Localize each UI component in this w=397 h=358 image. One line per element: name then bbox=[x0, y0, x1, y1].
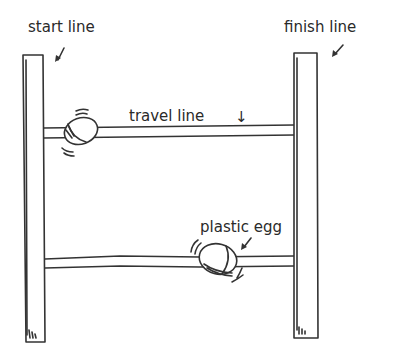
travel-line-label: travel line bbox=[129, 107, 204, 125]
finish-post bbox=[294, 53, 318, 338]
upper-egg bbox=[61, 109, 102, 156]
start-line-label: start line bbox=[28, 18, 95, 36]
lower-travel-line bbox=[45, 256, 294, 268]
travel-line-arrow-icon: ↓ bbox=[235, 108, 248, 126]
start-post bbox=[23, 55, 45, 342]
lower-egg bbox=[191, 240, 243, 282]
plastic-egg-label: plastic egg bbox=[200, 218, 282, 236]
egg-race-diagram: start line finish line travel line ↓ pla… bbox=[0, 0, 397, 358]
finish-line-label: finish line bbox=[284, 18, 356, 36]
